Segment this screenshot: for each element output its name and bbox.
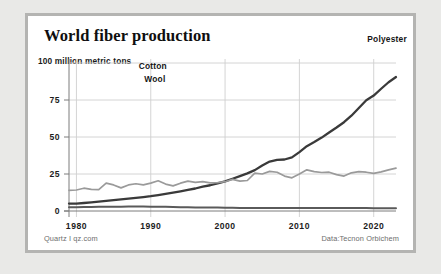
x-tick-1990: 1990 (140, 221, 161, 231)
x-tick-2010: 2010 (289, 221, 310, 231)
x-tick-2000: 2000 (215, 221, 236, 231)
line-chart-plot: 19801990200020102020 0255075 PolyesterCo… (28, 16, 413, 250)
x-axis-tick-labels: 19801990200020102020 (66, 221, 384, 231)
y-tick-50: 50 (49, 132, 60, 142)
series-inline-labels: PolyesterCottonWool (139, 34, 408, 84)
y-tick-25: 25 (49, 169, 60, 179)
x-tick-1980: 1980 (66, 221, 87, 231)
y-axis-tick-labels: 0255075 (49, 95, 60, 216)
series-line-polyester (69, 77, 396, 204)
x-tick-2020: 2020 (363, 221, 384, 231)
grid-lines (69, 59, 396, 217)
series-label-wool: Wool (144, 74, 165, 84)
series-paths (69, 77, 396, 208)
chart-card: World fiber production 100 million metri… (25, 13, 416, 253)
series-label-cotton: Cotton (139, 61, 167, 71)
series-line-cotton (69, 168, 396, 190)
series-line-wool (69, 207, 396, 209)
series-label-polyester: Polyester (367, 34, 407, 44)
axis-lines (64, 59, 396, 217)
credit-data-source: Data:Tecnon Orbichem (321, 234, 399, 243)
y-tick-75: 75 (49, 95, 60, 105)
credit-source: Quartz I qz.com (44, 234, 98, 243)
y-tick-0: 0 (55, 206, 60, 216)
